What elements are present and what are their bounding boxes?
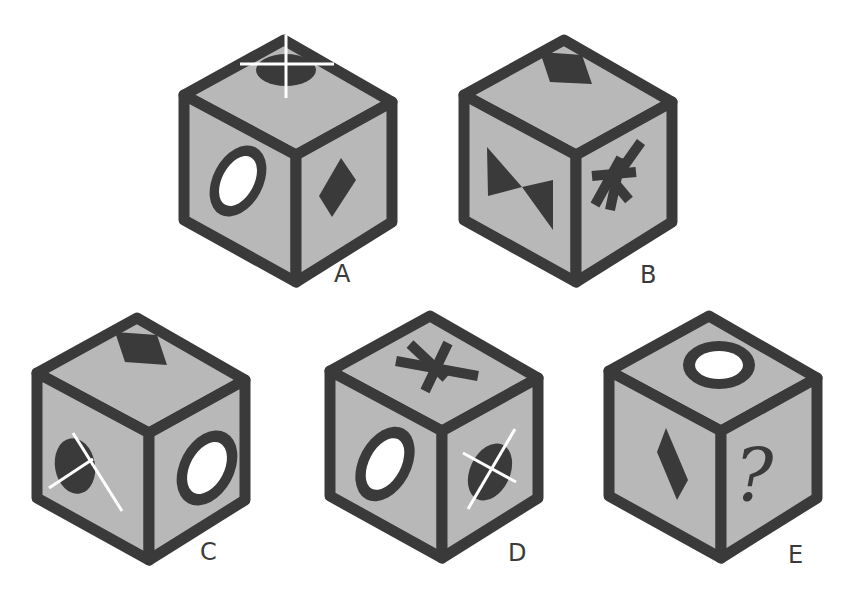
cube-d-label: D: [508, 541, 526, 565]
cube-e-top-ring-icon: [683, 341, 755, 389]
cube-d: [330, 316, 538, 558]
cube-c: [37, 318, 250, 560]
cube-e-label: E: [788, 543, 803, 567]
puzzle-canvas: ?: [0, 0, 863, 601]
cube-e-right-question-mark-icon: ?: [735, 434, 774, 518]
cube-a: [184, 35, 392, 282]
cube-puzzle: ? A B C D E: [0, 0, 863, 601]
cube-e: [609, 316, 817, 558]
cube-d-body: [330, 316, 538, 558]
cube-b: [464, 40, 672, 282]
cube-c-label: C: [200, 540, 217, 564]
cube-b-label: B: [640, 263, 656, 287]
cube-a-label: A: [334, 262, 350, 286]
